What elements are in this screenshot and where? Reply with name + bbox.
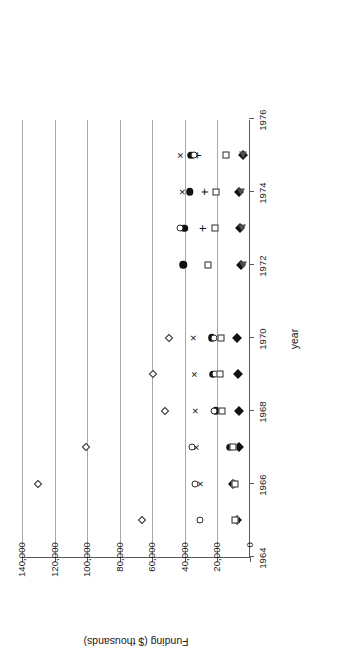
plot-area: ××××××××××+++++: [22, 120, 250, 558]
x-axis-tick: [249, 264, 254, 265]
x-axis-tick-label: 1964: [258, 534, 268, 582]
x-axis-title: year: [288, 120, 300, 558]
y-axis-tick-label: 100,000: [82, 542, 92, 577]
y-axis-tick-label: 40,000: [180, 542, 190, 572]
x-axis-tick-label: 1976: [258, 96, 268, 144]
x-axis-tick-label: 1968: [258, 388, 268, 436]
x-axis-tick: [249, 483, 254, 484]
y-axis-tick-label: 0: [245, 542, 255, 547]
y-axis-tick-label: 120,000: [50, 542, 60, 577]
rotated-figure-container: I. Nature of Water×IV. Water Quantity Ma…: [0, 0, 348, 654]
x-axis-tick-label: 1966: [258, 461, 268, 509]
x-axis-tick: [249, 337, 254, 338]
x-axis-tick: [249, 410, 254, 411]
y-axis-tick: [250, 557, 251, 562]
x-axis-tick-label: 1970: [258, 315, 268, 363]
gridline-horizontal: [152, 120, 153, 557]
y-axis-tick-label: 80,000: [115, 542, 125, 572]
x-axis-tick: [249, 556, 254, 557]
x-axis-tick-label: 1972: [258, 242, 268, 290]
gridline-horizontal: [87, 120, 88, 557]
scatter-chart-figure: I. Nature of Water×IV. Water Quantity Ma…: [0, 0, 348, 654]
y-axis-tick-label: 140,000: [17, 542, 27, 577]
y-axis-tick-label: 60,000: [147, 542, 157, 572]
gridline-horizontal: [120, 120, 121, 557]
x-axis-tick-label: 1974: [258, 169, 268, 217]
y-axis-tick-label: 20,000: [212, 542, 222, 572]
x-axis-tick: [249, 118, 254, 119]
gridline-horizontal: [55, 120, 56, 557]
x-axis-tick: [249, 191, 254, 192]
gridline-horizontal: [22, 120, 23, 557]
y-axis-title: Funding ($ thousands): [22, 632, 250, 648]
